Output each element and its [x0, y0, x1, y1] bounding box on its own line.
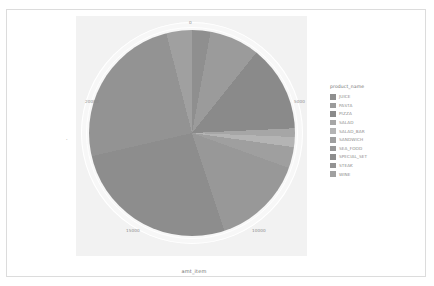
legend-swatch-icon	[330, 94, 336, 100]
axis-tick-5000: 5000	[294, 99, 305, 104]
legend-item[interactable]: SALAD_BAR	[330, 127, 367, 136]
legend-item[interactable]: SANDWICH	[330, 135, 367, 144]
legend-item-label: SPECIAL_SET	[339, 154, 367, 159]
axis-tick-0: 0	[189, 20, 192, 25]
legend-swatch-icon	[330, 128, 336, 134]
legend-swatch-icon	[330, 154, 336, 160]
legend-item-label: STEAK	[339, 163, 353, 168]
legend-item[interactable]: PIZZA	[330, 110, 367, 119]
legend-swatch-icon	[330, 146, 336, 152]
legend-item[interactable]: SPECIAL_SET	[330, 153, 367, 162]
legend-swatch-icon	[330, 137, 336, 143]
legend-swatch-icon	[330, 163, 336, 169]
legend: product_name JUICEPASTAPIZZASALADSALAD_B…	[330, 84, 367, 178]
legend-item[interactable]: WINE	[330, 170, 367, 179]
legend-swatch-icon	[330, 103, 336, 109]
legend-item-label: SANDWICH	[339, 137, 363, 142]
legend-item-label: JUICE	[339, 94, 351, 99]
legend-item-list: JUICEPASTAPIZZASALADSALAD_BARSANDWICHSEA…	[330, 93, 367, 179]
legend-swatch-icon	[330, 111, 336, 117]
legend-title: product_name	[330, 84, 367, 89]
chart-screenshot: 0 5000 10000 15000 20000 amt_item · prod…	[0, 0, 434, 286]
legend-item-label: SALAD_BAR	[339, 129, 365, 134]
legend-item-label: PASTA	[339, 103, 352, 108]
axis-tick-20000: 20000	[85, 99, 99, 104]
legend-swatch-icon	[330, 120, 336, 126]
y-axis-title: ·	[66, 136, 68, 142]
legend-swatch-icon	[330, 171, 336, 177]
x-axis-title: amt_item	[0, 268, 388, 274]
legend-item-label: PIZZA	[339, 111, 352, 116]
legend-item[interactable]: PASTA	[330, 101, 367, 110]
pie-chart	[89, 30, 295, 236]
legend-item[interactable]: STEAK	[330, 161, 367, 170]
legend-item-label: SEA_FOOD	[339, 146, 362, 151]
axis-tick-15000: 15000	[126, 228, 140, 233]
axis-tick-10000: 10000	[252, 228, 266, 233]
legend-item[interactable]: SEA_FOOD	[330, 144, 367, 153]
legend-item-label: WINE	[339, 172, 351, 177]
legend-item[interactable]: SALAD	[330, 118, 367, 127]
legend-item-label: SALAD	[339, 120, 354, 125]
legend-item[interactable]: JUICE	[330, 93, 367, 102]
